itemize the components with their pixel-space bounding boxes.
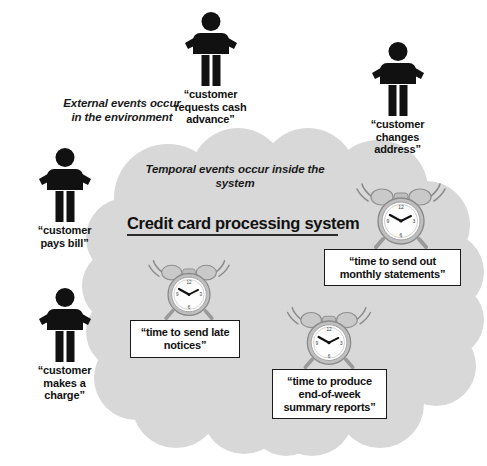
- actor-label: “customer changes address”: [350, 118, 445, 156]
- temporal-event-end-of-week-reports[interactable]: 12 3 6 9 “time to produce end-of-week su…: [272, 305, 387, 419]
- annotation-temporal-events: Temporal events occur inside the system: [140, 163, 330, 190]
- svg-text:3: 3: [413, 218, 416, 224]
- svg-text:6: 6: [328, 354, 331, 359]
- actor-label: “customer makes a charge”: [17, 364, 112, 402]
- external-event-customer-requests-cash-advance[interactable]: “customer requests cash advance”: [163, 12, 258, 126]
- temporal-event-late-notices[interactable]: 12 3 6 9 “time to send late notices”: [130, 258, 240, 358]
- diagram-canvas: External events occur in the environment…: [0, 0, 487, 466]
- external-event-customer-changes-address[interactable]: “customer changes address”: [350, 42, 445, 156]
- svg-text:9: 9: [315, 341, 318, 346]
- svg-text:3: 3: [340, 341, 343, 346]
- temporal-event-monthly-statements[interactable]: 12 3 6 9 “time to send out monthly state…: [324, 181, 461, 286]
- alarm-clock-icon: 12 3 6 9: [284, 305, 374, 369]
- svg-text:6: 6: [400, 232, 403, 238]
- person-icon: [183, 12, 239, 86]
- system-title-underline: [127, 234, 338, 236]
- person-icon: [37, 288, 93, 362]
- svg-text:12: 12: [186, 280, 192, 285]
- event-label-box: “time to produce end-of-week summary rep…: [272, 369, 387, 419]
- person-icon: [370, 42, 426, 116]
- event-label-box: “time to send late notices”: [130, 320, 240, 358]
- svg-text:9: 9: [387, 218, 390, 224]
- person-icon: [37, 148, 93, 222]
- external-event-customer-pays-bill[interactable]: “customer pays bill”: [17, 148, 112, 249]
- alarm-clock-icon: 12 3 6 9: [356, 181, 446, 249]
- external-event-customer-makes-a-charge[interactable]: “customer makes a charge”: [17, 288, 112, 402]
- actor-label: “customer requests cash advance”: [163, 88, 258, 126]
- alarm-clock-icon: 12 3 6 9: [144, 258, 234, 320]
- actor-label: “customer pays bill”: [17, 224, 112, 249]
- event-label-box: “time to send out monthly statements”: [324, 249, 461, 286]
- svg-text:12: 12: [326, 327, 332, 332]
- svg-text:12: 12: [398, 204, 404, 210]
